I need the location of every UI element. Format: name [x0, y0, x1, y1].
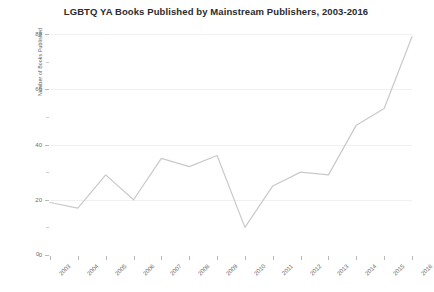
x-tick-mark: [301, 256, 302, 260]
y-tick-mark: [45, 34, 49, 35]
chart-title: LGBTQ YA Books Published by Mainstream P…: [0, 6, 432, 17]
x-tick-mark: [384, 256, 385, 260]
x-tick-label: 2012: [309, 263, 323, 277]
x-tick-label: 2009: [225, 263, 239, 277]
x-tick-label: 2014: [364, 263, 378, 277]
y-tick-mark: [45, 255, 49, 256]
x-tick-label: 2003: [58, 263, 72, 277]
x-tick-mark: [217, 256, 218, 260]
x-tick-label: 2008: [197, 263, 211, 277]
x-tick-mark: [161, 256, 162, 260]
x-tick-mark: [356, 256, 357, 260]
x-tick-label: 2004: [86, 263, 100, 277]
x-tick-mark: [245, 256, 246, 260]
x-tick-mark: [273, 256, 274, 260]
x-tick-label: 2007: [169, 263, 183, 277]
y-tick-mark: [45, 145, 49, 146]
x-tick-mark: [106, 256, 107, 260]
x-tick-label: 2006: [141, 263, 155, 277]
series-polyline: [50, 37, 412, 228]
x-tick-mark: [328, 256, 329, 260]
x-tick-mark: [50, 256, 51, 260]
x-tick-mark: [412, 256, 413, 260]
x-tick-label: 2010: [253, 263, 267, 277]
series-line: [50, 34, 412, 255]
y-tick-label: 40: [20, 142, 42, 148]
y-minor-tick-mark: [46, 172, 49, 173]
y-tick-mark: [45, 200, 49, 201]
x-tick-label: 2011: [281, 263, 294, 276]
y-tick-label: 80: [20, 31, 42, 37]
x-tick-label: 2016: [420, 263, 434, 277]
x-tick-label: 2015: [392, 263, 406, 277]
y-minor-tick-mark: [46, 117, 49, 118]
x-tick-mark: [78, 256, 79, 260]
x-tick-mark: [189, 256, 190, 260]
y-axis-title: Number of Books Published: [37, 2, 43, 122]
y-minor-tick-mark: [46, 62, 49, 63]
y-tick-label: 20: [20, 197, 42, 203]
x-tick-label: 2013: [336, 263, 350, 277]
y-tick-mark: [45, 89, 49, 90]
y-tick-label: 60: [20, 86, 42, 92]
y-minor-tick-mark: [46, 227, 49, 228]
x-tick-mark: [134, 256, 135, 260]
plot-area: Number of Books Published 020406080 2003…: [50, 34, 412, 255]
x-tick-label: 2005: [114, 263, 128, 277]
y-tick-label: 0: [20, 252, 42, 258]
